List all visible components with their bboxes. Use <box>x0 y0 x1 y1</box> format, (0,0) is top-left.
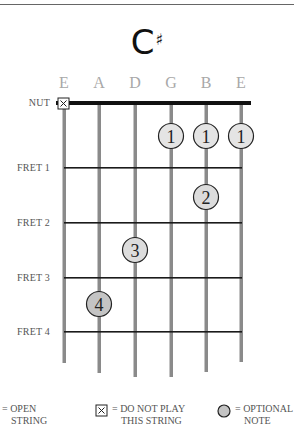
legend-mute-line1: = DO NOT PLAY <box>112 403 185 415</box>
fret-4 <box>64 331 242 333</box>
fret-1 <box>64 167 242 169</box>
finger-dot-b-fret2: 2 <box>194 185 219 210</box>
legend-optional-circle-icon <box>218 405 230 417</box>
nut <box>56 101 251 105</box>
legend-optional-note: = OPTIONAL NOTE <box>235 403 293 427</box>
svg-text:1: 1 <box>167 127 176 147</box>
finger-dot-a-fret4-optional: 4 <box>87 292 112 317</box>
svg-text:3: 3 <box>131 241 140 261</box>
string-low-e <box>63 103 67 363</box>
legend-optional-line1: = OPTIONAL <box>235 403 293 415</box>
svg-text:2: 2 <box>202 188 211 208</box>
fret-3 <box>64 277 242 279</box>
legend-mute-line2: THIS STRING <box>112 415 185 427</box>
legend-open-string: = OPEN STRING <box>2 403 47 427</box>
finger-dot-b-fret1: 1 <box>194 124 219 149</box>
finger-dot-d-fret3: 3 <box>123 238 148 263</box>
finger-dot-high-e-fret1: 1 <box>229 124 254 149</box>
svg-text:4: 4 <box>95 295 104 315</box>
finger-dot-g-fret1: 1 <box>159 124 184 149</box>
fretboard: 1 1 1 2 3 4 <box>0 0 294 431</box>
svg-text:1: 1 <box>202 127 211 147</box>
legend-optional-line2: NOTE <box>235 415 293 427</box>
fret-2 <box>64 222 242 224</box>
legend-mute-x-icon <box>96 405 107 416</box>
svg-text:1: 1 <box>237 127 246 147</box>
legend-open-line2: STRING <box>2 415 47 427</box>
legend-do-not-play: = DO NOT PLAY THIS STRING <box>112 403 185 427</box>
mute-x-icon <box>58 98 69 109</box>
legend-open-line1: = OPEN <box>2 403 47 415</box>
